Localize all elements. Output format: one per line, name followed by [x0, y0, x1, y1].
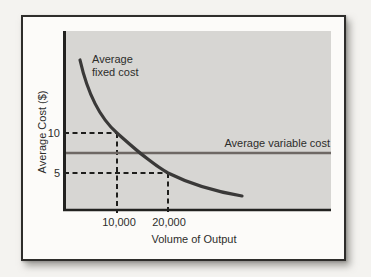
avc-line-label: Average variable cost: [224, 137, 330, 150]
x-tick-label-20000: 20,000: [152, 216, 186, 229]
figure-stage: Average fixed cost Average variable cost…: [0, 0, 371, 277]
x-tick-label-10000: 10,000: [102, 216, 136, 229]
x-axis-title: Volume of Output: [152, 233, 237, 246]
afc-curve-label: Average fixed cost: [92, 53, 138, 79]
y-tick-label-10: 10: [38, 127, 60, 140]
y-tick-label-5: 5: [38, 167, 60, 180]
